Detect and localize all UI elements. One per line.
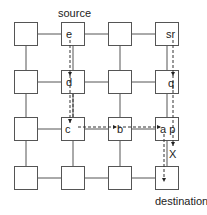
blocked-label: X [169,148,177,160]
routing-paths [70,40,173,180]
node-label-c: c [65,123,71,135]
node-r2c0 [15,118,38,141]
node-label-q: q [168,77,174,89]
source-label: source [58,7,91,19]
node-q [156,71,179,94]
node-label-sr: sr [166,28,176,40]
mesh-nodes [15,23,179,190]
node-destination [156,167,179,190]
node-r3c1 [62,167,85,190]
node-e [62,23,85,46]
node-label-b: b [117,123,123,135]
node-d [62,71,85,94]
node-r0c2 [109,23,132,46]
node-r0c0 [15,23,38,46]
node-r3c0 [15,167,38,190]
node-label-d: d [66,76,72,88]
node-r1c2 [109,71,132,94]
node-label-ap: a p [160,123,175,135]
node-r1c0 [15,71,38,94]
node-r3c2 [109,167,132,190]
destination-label: destination [155,195,207,207]
mesh-links [26,34,167,178]
node-label-e: e [66,28,72,40]
arrow-down-icon [171,142,175,146]
mesh-diagram: e sr d q c b a p source X destination [0,0,207,215]
